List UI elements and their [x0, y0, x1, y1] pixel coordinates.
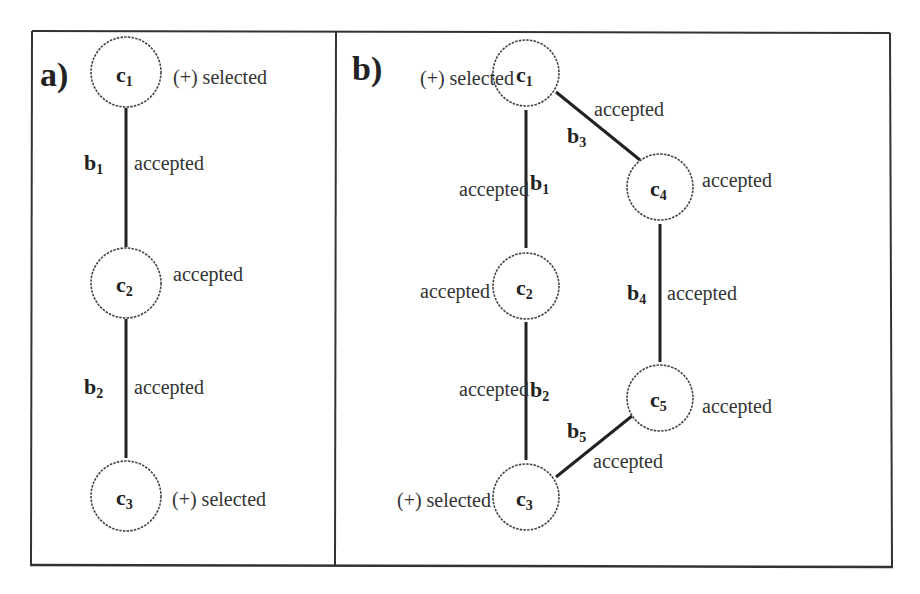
node-c2 — [91, 248, 161, 318]
edge-status-b1: accepted — [459, 178, 529, 201]
status-c2: accepted — [420, 280, 490, 303]
status-c4: accepted — [702, 169, 772, 192]
status-c3: (+) selected — [172, 488, 266, 511]
frame-bottom — [30, 565, 893, 567]
edge-status-b5: accepted — [593, 450, 663, 473]
status-c3: (+) selected — [397, 489, 491, 512]
edge-status-b2: accepted — [134, 376, 204, 399]
panel-label-a: a) — [40, 56, 68, 94]
status-c1: (+) selected — [420, 67, 514, 90]
diagram-canvas: a) c1 c2 c3 (+) selected accepted (+) se… — [0, 0, 920, 594]
edge-status-b1: accepted — [134, 152, 204, 175]
frame-left — [31, 31, 32, 565]
frame-right — [890, 33, 892, 567]
edge-label-b1: b1 — [530, 170, 549, 197]
panel-b: b) c1 c2 c3 c4 c5 (+) selected accepted … — [352, 40, 772, 530]
status-c2: accepted — [173, 263, 243, 286]
node-c4 — [627, 154, 693, 220]
panel-label-b: b) — [352, 50, 382, 88]
edge-label-b3: b3 — [567, 123, 586, 150]
status-c1: (+) selected — [173, 66, 267, 89]
edge-status-b2: accepted — [459, 378, 529, 401]
node-c3 — [91, 461, 161, 531]
node-c3 — [493, 464, 559, 530]
edge-label-b1: b1 — [84, 150, 103, 177]
frame-top — [32, 31, 890, 33]
panel-divider — [335, 31, 336, 565]
node-c2 — [493, 253, 559, 319]
panel-a: a) c1 c2 c3 (+) selected accepted (+) se… — [40, 37, 267, 531]
node-c1 — [91, 37, 161, 107]
status-c5: accepted — [702, 395, 772, 418]
edge-label-b4: b4 — [627, 280, 646, 307]
edge-status-b4: accepted — [667, 282, 737, 305]
node-c5 — [627, 365, 693, 431]
edge-label-b2: b2 — [84, 374, 103, 401]
edge-status-b3: accepted — [594, 98, 664, 121]
edge-label-b2: b2 — [530, 377, 549, 404]
edge-label-b5: b5 — [567, 418, 586, 445]
